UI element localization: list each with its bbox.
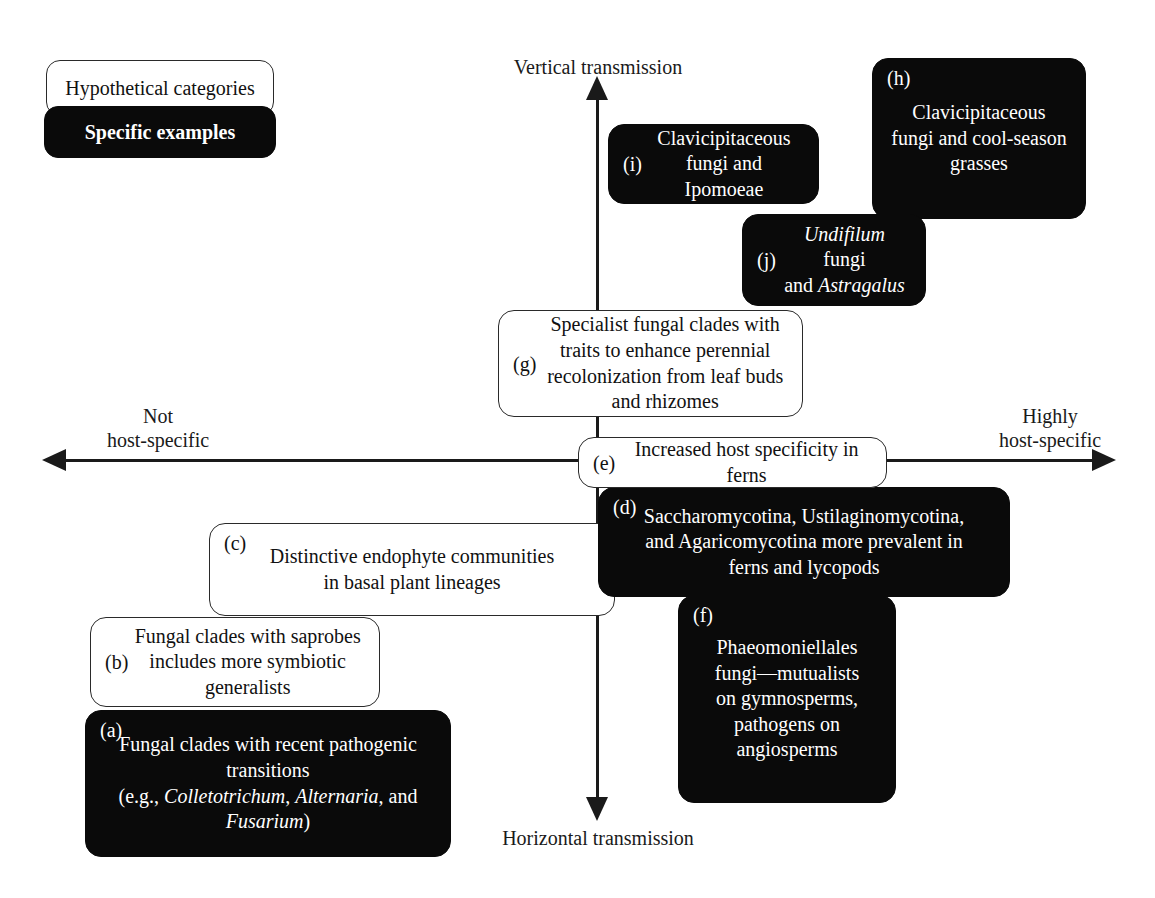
box-f-tag: (f): [693, 603, 713, 627]
box-g-tag: (g): [513, 352, 536, 376]
diagram-canvas: Vertical transmission Horizontal transmi…: [0, 0, 1155, 898]
legend-specific-examples: Specific examples: [44, 106, 276, 158]
legend-specific-label: Specific examples: [85, 121, 236, 144]
box-i-text: Clavicipitaceous fungi and Ipomoeae: [642, 122, 818, 207]
box-d-text: Saccharomycotina, Ustilaginomycotina, an…: [628, 500, 980, 585]
axis-label-highly-host-specific: Highly host-specific: [950, 404, 1150, 453]
box-b-tag: (b): [105, 650, 128, 674]
box-g-text: Specialist fungal clades with traits to …: [536, 308, 802, 418]
arrow-up-icon: [586, 76, 608, 100]
box-b-text: Fungal clades with saprobes includes mor…: [128, 620, 379, 705]
box-i-tag: (i): [623, 152, 642, 176]
diagram-box-g: (g) Specialist fungal clades with traits…: [498, 310, 803, 417]
box-f-text: Phaeomoniellales fungi—mutualists on gym…: [699, 631, 875, 767]
diagram-box-c: (c) Distinctive endophyte communities in…: [209, 523, 615, 616]
box-a-text: Fungal clades with recent pathogenic tra…: [103, 728, 434, 838]
box-e-text: Increased host specificity in ferns: [615, 433, 886, 492]
box-c-text: Distinctive endophyte communities in bas…: [254, 540, 570, 599]
arrow-down-icon: [586, 797, 608, 821]
diagram-box-a: (a) Fungal clades with recent pathogenic…: [85, 710, 451, 857]
box-e-tag: (e): [593, 451, 615, 475]
axis-label-horizontal-transmission: Horizontal transmission: [452, 826, 744, 850]
diagram-box-h: (h) Clavicipitaceous fungi and cool-seas…: [872, 58, 1086, 219]
axis-label-not-host-specific: Not host-specific: [58, 404, 258, 453]
box-d-tag: (d): [613, 495, 636, 519]
diagram-box-j: (j) Undifilum fungi and Astragalus: [742, 214, 926, 306]
axis-label-vertical-transmission: Vertical transmission: [470, 55, 726, 79]
diagram-box-f: (f) Phaeomoniellales fungi—mutualists on…: [678, 595, 896, 803]
box-h-text: Clavicipitaceous fungi and cool-season g…: [875, 96, 1083, 181]
box-j-tag: (j): [757, 248, 776, 272]
diagram-box-b: (b) Fungal clades with saprobes includes…: [90, 617, 380, 707]
box-j-text: Undifilum fungi and Astragalus: [776, 218, 925, 303]
box-h-tag: (h): [887, 66, 910, 90]
diagram-box-e: (e) Increased host specificity in ferns: [578, 437, 887, 488]
legend-hypothetical-label: Hypothetical categories: [65, 77, 254, 100]
diagram-box-i: (i) Clavicipitaceous fungi and Ipomoeae: [608, 124, 819, 204]
diagram-box-d: (d) Saccharomycotina, Ustilaginomycotina…: [598, 487, 1010, 597]
box-c-tag: (c): [224, 531, 246, 555]
box-a-tag: (a): [100, 718, 122, 742]
